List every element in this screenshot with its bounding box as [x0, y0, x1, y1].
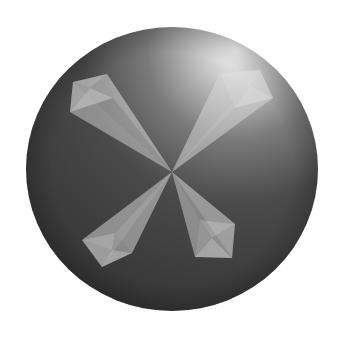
sphere-illustration	[0, 0, 352, 340]
sphere-edge-shade	[26, 27, 318, 311]
